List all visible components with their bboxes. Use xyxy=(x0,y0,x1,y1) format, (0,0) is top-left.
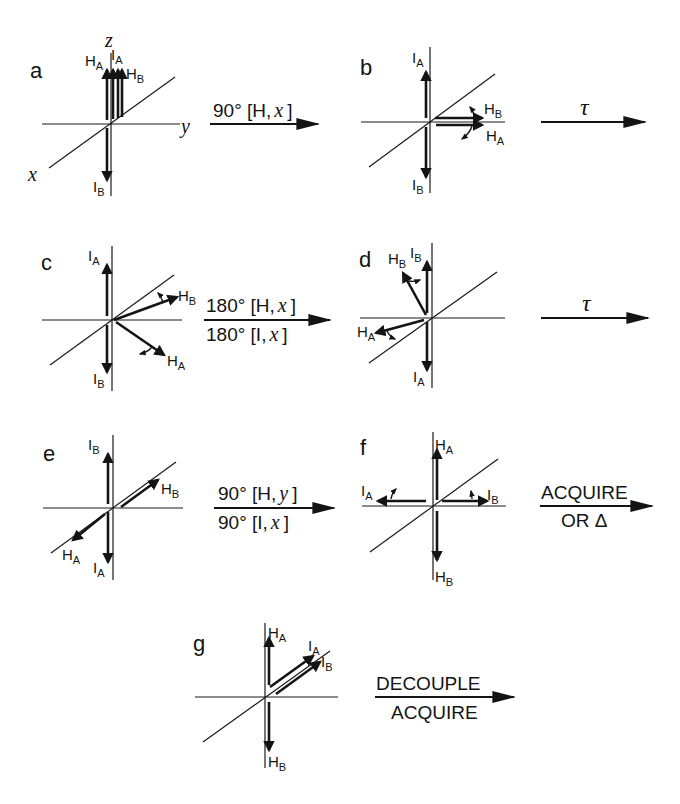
pulse-sequence-vector-diagram: a z y x HA IA HB IB 90° [H,x] b IA HB xyxy=(0,0,680,804)
label-HB: HB xyxy=(161,480,179,500)
panel-letter-e: e xyxy=(43,441,55,466)
label-IA: IA xyxy=(361,482,373,502)
x-axis-line xyxy=(369,74,495,167)
x-axis-label: x xyxy=(27,163,37,185)
label-IB: IB xyxy=(93,370,105,390)
decouple-label: DECOUPLE xyxy=(376,673,481,694)
pulse-label-H: 180° [H,x] xyxy=(206,294,296,316)
transition-decouple-acquire: DECOUPLE ACQUIRE xyxy=(375,673,514,723)
precession-arrow-HB xyxy=(470,107,474,117)
transition-acquire-or-delta: ACQUIRE OR Δ xyxy=(540,482,652,531)
or-delta-label: OR Δ xyxy=(561,510,608,531)
label-HA: HA xyxy=(85,52,104,72)
transition-pulse-90-Hy-Ix: 90° [H,y] 90° [I,x] xyxy=(214,482,334,533)
panel-letter-f: f xyxy=(360,435,367,460)
label-HA: HA xyxy=(167,352,186,372)
precession-arrow-HB xyxy=(158,293,163,302)
vector-HB xyxy=(114,297,177,320)
label-HA: HA xyxy=(268,624,287,644)
panel-a: a z y x HA IA HB IB xyxy=(27,29,190,198)
precession-arrow-HA xyxy=(462,126,472,139)
vector-HA xyxy=(376,320,424,333)
vector-HB xyxy=(121,480,158,507)
precession-arrow-HB xyxy=(409,280,420,281)
label-IA: IA xyxy=(412,49,424,69)
vector-HA xyxy=(73,514,105,540)
pulse-label-I: 90° [I,x] xyxy=(218,511,289,533)
tau-label: τ xyxy=(580,94,590,120)
panel-g: g HA IA IB HB xyxy=(193,623,338,773)
panel-e: e IB HB HA IA xyxy=(43,435,183,580)
panel-b: b IA HB HA IB xyxy=(360,47,505,196)
panel-f: f HA IA IB HB xyxy=(360,432,506,588)
pulse-label: 90° [H,x] xyxy=(213,99,292,121)
label-IB: IB xyxy=(321,653,333,673)
panel-letter-g: g xyxy=(193,631,205,656)
transition-pulse-90-Hx: 90° [H,x] xyxy=(210,99,318,124)
vector-HA xyxy=(116,322,164,355)
label-HA: HA xyxy=(486,127,505,147)
label-HA: HA xyxy=(62,546,81,566)
label-HB: HB xyxy=(126,65,144,85)
panel-c: c IA HB HA IB xyxy=(41,246,196,391)
label-IB: IB xyxy=(93,178,105,198)
acquire-label: ACQUIRE xyxy=(391,702,478,723)
label-IA: IA xyxy=(88,247,100,267)
label-IB: IB xyxy=(410,244,422,264)
label-IA: IA xyxy=(413,368,425,388)
panel-letter-d: d xyxy=(359,247,371,272)
label-HB: HB xyxy=(388,250,406,270)
label-IB: IB xyxy=(412,176,424,196)
label-HB: HB xyxy=(178,287,196,307)
transition-delay-tau-1: τ xyxy=(541,94,645,122)
precession-arrow-HA xyxy=(140,347,152,354)
label-IA: IA xyxy=(111,46,123,66)
label-HB: HB xyxy=(435,568,453,588)
label-HB: HB xyxy=(484,100,502,120)
label-IA: IA xyxy=(308,637,320,657)
label-IB: IB xyxy=(88,436,100,456)
vector-HB xyxy=(403,273,426,315)
transition-pulse-180-Hx-Ix: 180° [H,x] 180° [I,x] xyxy=(204,294,330,345)
acquire-label: ACQUIRE xyxy=(541,482,628,503)
y-axis-label: y xyxy=(179,115,190,138)
panel-letter-c: c xyxy=(41,250,52,275)
panel-letter-a: a xyxy=(30,58,43,83)
precession-arrow-HA xyxy=(387,331,395,339)
label-HA: HA xyxy=(357,323,376,343)
pulse-label-H: 90° [H,y] xyxy=(218,482,297,505)
panel-d: d HB IB HA IA xyxy=(357,243,505,388)
precession-arrow-IB xyxy=(471,491,472,499)
pulse-label-I: 180° [I,x] xyxy=(206,323,288,345)
tau-label: τ xyxy=(582,290,592,316)
label-HB: HB xyxy=(268,753,286,773)
transition-delay-tau-2: τ xyxy=(541,290,648,318)
precession-arrow-IA xyxy=(391,489,396,499)
panel-letter-b: b xyxy=(360,55,372,80)
label-IB: IB xyxy=(487,486,499,506)
label-IA: IA xyxy=(93,559,105,579)
